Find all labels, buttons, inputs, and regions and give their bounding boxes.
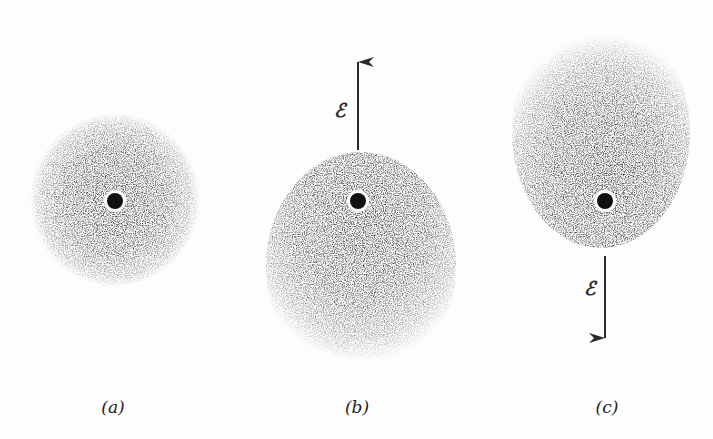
polarization-figure: (a)ℰ(b)ℰ(c) bbox=[0, 0, 713, 439]
panel-label-c: (c) bbox=[596, 397, 619, 417]
panel-label-b: (b) bbox=[345, 397, 369, 417]
nucleus bbox=[350, 193, 366, 209]
electron-cloud bbox=[512, 16, 690, 248]
nucleus bbox=[597, 193, 613, 209]
panel-c bbox=[512, 16, 690, 338]
nucleus bbox=[107, 193, 123, 209]
panel-b bbox=[266, 62, 456, 380]
panel-a bbox=[30, 113, 200, 287]
electric-field-label: ℰ bbox=[584, 277, 596, 299]
electron-cloud bbox=[266, 152, 456, 380]
electric-field-label: ℰ bbox=[334, 99, 346, 121]
panel-label-a: (a) bbox=[101, 397, 124, 417]
figure-canvas bbox=[0, 0, 713, 439]
